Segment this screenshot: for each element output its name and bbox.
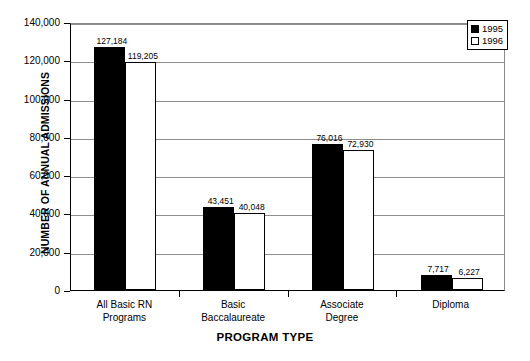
- bar-chart: NUMBER OF ANNUAL ADMISSIONS 020,00040,00…: [0, 0, 530, 361]
- bar-1995: [421, 275, 452, 290]
- bar-1996: [125, 62, 156, 290]
- x-axis-category-line: Degree: [288, 311, 397, 324]
- bar-1995: [94, 47, 125, 290]
- y-axis-tick-label: 60,000: [0, 171, 60, 181]
- y-axis-tick-label: 120,000: [0, 56, 60, 66]
- bar-value-label-1996: 40,048: [230, 203, 273, 212]
- y-axis-tick-label: 80,000: [0, 133, 60, 143]
- bar-value-label-1995: 127,184: [90, 37, 133, 46]
- y-axis-tick-label: 20,000: [0, 248, 60, 258]
- x-axis-separator-tick: [179, 291, 180, 297]
- legend-label-1996: 1996: [482, 36, 503, 46]
- bar-1995: [203, 207, 234, 290]
- bar-1995: [312, 144, 343, 290]
- x-axis-category-line: Basic: [179, 298, 288, 311]
- x-axis-category-line: Associate: [288, 298, 397, 311]
- x-axis-category-line: Diploma: [396, 298, 505, 311]
- x-axis-separator-tick: [288, 291, 289, 297]
- bar-value-label-1996: 6,227: [448, 268, 491, 277]
- x-axis-separator-tick: [396, 291, 397, 297]
- x-axis-category-label: All Basic RNPrograms: [70, 298, 179, 324]
- legend-swatch-1996-icon: [471, 37, 479, 45]
- gridline: [71, 24, 504, 25]
- bar-value-label-1996: 72,930: [339, 140, 382, 149]
- plot-area: 1995 1996: [70, 23, 505, 291]
- y-axis-tick-label: 40,000: [0, 209, 60, 219]
- bar-1996: [343, 150, 374, 290]
- bar-1996: [234, 213, 265, 290]
- legend-swatch-1995-icon: [471, 25, 479, 33]
- legend: 1995 1996: [467, 20, 508, 50]
- x-axis-category-label: BasicBaccalaureate: [179, 298, 288, 324]
- y-axis-tick-label: 0: [0, 286, 60, 296]
- x-axis-title: PROGRAM TYPE: [0, 331, 530, 343]
- bar-1996: [452, 278, 483, 290]
- x-axis-category-line: All Basic RN: [70, 298, 179, 311]
- x-axis-category-line: Programs: [70, 311, 179, 324]
- y-axis-tick-label: 100,000: [0, 95, 60, 105]
- legend-item-1996: 1996: [471, 35, 503, 47]
- y-axis-tick-mark: [64, 291, 70, 292]
- bar-value-label-1996: 119,205: [121, 52, 164, 61]
- legend-label-1995: 1995: [482, 24, 503, 34]
- x-axis-category-label: Diploma: [396, 298, 505, 311]
- y-axis-tick-label: 140,000: [0, 18, 60, 28]
- x-axis-category-line: Baccalaureate: [179, 311, 288, 324]
- legend-item-1995: 1995: [471, 23, 503, 35]
- x-axis-category-label: AssociateDegree: [288, 298, 397, 324]
